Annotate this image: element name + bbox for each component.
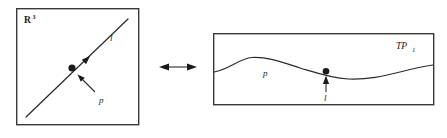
figure-canvas: R 3 l p p l TP 1	[0, 0, 447, 138]
double-arrow-head-right	[187, 64, 197, 71]
euclidean-space-panel	[17, 9, 139, 125]
tangent-plane-label-base: TP	[396, 41, 407, 51]
tangent-plane-label-subscript: 1	[412, 46, 415, 53]
curve-p-label: p	[262, 68, 268, 78]
double-arrow-head-left	[159, 64, 169, 71]
space-label-superscript: 3	[33, 14, 36, 20]
duality-double-arrow	[159, 64, 197, 71]
point-p-label: p	[98, 95, 104, 105]
incidence-point-dot	[323, 68, 330, 75]
duality-figure: R 3 l p p l TP 1	[0, 0, 447, 138]
point-p-dot	[68, 64, 75, 71]
space-label-base: R	[24, 15, 31, 25]
